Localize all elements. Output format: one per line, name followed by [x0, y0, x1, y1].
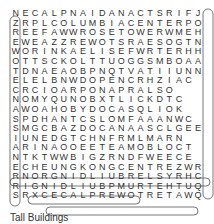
grid-letter[interactable]: A	[174, 76, 184, 86]
grid-letter[interactable]: A	[69, 191, 79, 201]
grid-letter[interactable]: T	[136, 191, 146, 201]
grid-row: NTKTWWBIGZRNDFWEECE	[11, 153, 203, 163]
grid-letter[interactable]: N	[193, 67, 203, 77]
grid-row: ELELBNWDOPENCRHZIAC	[11, 76, 203, 86]
grid-row: TDNAEAOBPNQTVATIIUNN	[11, 67, 203, 77]
grid-letter[interactable]: R	[145, 191, 155, 201]
grid-letter[interactable]: C	[184, 76, 194, 86]
grid-row: NOMYQUNOBXTLICKDTC	[11, 95, 203, 105]
grid-letter[interactable]: X	[30, 191, 40, 201]
grid-row: IUNEDGTCHNFRMLMARN	[11, 134, 203, 144]
grid-letter[interactable]: R	[97, 191, 107, 201]
letter-grid: NECALPNAIDANACTSRIFJZRPLCOLUMBIACENTERPO…	[11, 9, 203, 201]
grid-row: WORINKAELISEFWRTERHH	[11, 47, 203, 57]
grid-letter[interactable]: C	[40, 191, 50, 201]
puzzle-title: Tall Buildings	[10, 212, 68, 223]
grid-letter[interactable]: Q	[193, 191, 203, 201]
grid-letter[interactable]: P	[88, 191, 98, 201]
grid-letter[interactable]: T	[165, 191, 175, 201]
grid-row: RNORGNIDLIUBRELSYRHC	[11, 172, 203, 182]
grid-letter[interactable]: E	[49, 191, 59, 201]
grid-letter[interactable]: E	[193, 124, 203, 134]
grid-row: REEFAWWROSETOWERWMEH	[11, 28, 203, 38]
grid-letter[interactable]: O	[126, 191, 136, 201]
grid-row: CRCIOARPONAPRALSO	[11, 86, 203, 96]
grid-letter[interactable]: L	[78, 191, 88, 201]
grid-letter[interactable]: E	[184, 124, 194, 134]
grid-row: SRXCECALPREWOTRETAWQ	[11, 191, 203, 201]
grid-row: NECALPNAIDANACTSRIFJ	[11, 9, 203, 19]
grid-row: ZRPLCOLUMBIACENTERPO	[11, 19, 203, 29]
grid-letter[interactable]: A	[174, 191, 184, 201]
grid-letter[interactable]: S	[11, 191, 21, 201]
grid-row: EWEAZZREWOTSRAESOGTN	[11, 38, 203, 48]
grid-letter[interactable]: W	[184, 191, 194, 201]
grid-letter[interactable]: R	[21, 191, 31, 201]
grid-row: SPDHANTCSLOMFAAANWC	[11, 115, 203, 125]
grid-letter[interactable]: E	[107, 191, 117, 201]
grid-letter[interactable]: W	[117, 191, 127, 201]
grid-row: ARINAOOEETEAMOBLOCT	[11, 143, 203, 153]
grid-row: ECHEUNGKONGCENTREZWR	[11, 163, 203, 173]
grid-letter[interactable]: C	[59, 191, 69, 201]
grid-row: OTTSCKOLTTUOGGSMBOAA	[11, 57, 203, 67]
grid-row: RIGNIDLIUBPMURTEHTUQ	[11, 182, 203, 192]
grid-letter[interactable]: E	[155, 191, 165, 201]
grid-row: SMGCBAZDOCANAASCLGEE	[11, 124, 203, 134]
